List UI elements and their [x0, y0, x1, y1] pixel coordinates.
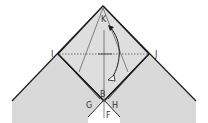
label-b: B	[100, 90, 106, 99]
label-i: I	[51, 50, 53, 59]
origami-diagram: K I J B G H F	[0, 0, 208, 123]
label-j: J	[154, 50, 157, 59]
label-g: G	[86, 101, 92, 110]
label-k: K	[101, 15, 107, 24]
label-f: F	[106, 111, 111, 120]
label-h: H	[112, 101, 118, 110]
